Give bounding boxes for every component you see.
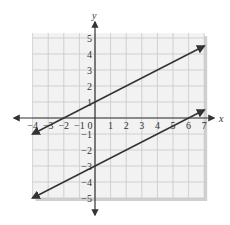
y-tick-label: −5 <box>81 193 92 204</box>
y-tick-label: 3 <box>87 65 92 76</box>
y-axis-label: y <box>91 10 97 21</box>
x-tick-label: 2 <box>124 120 129 131</box>
x-tick-label: 1 <box>108 120 113 131</box>
y-tick-label: 2 <box>87 81 92 92</box>
x-tick-label: −4 <box>27 120 38 131</box>
x-axis-label: x <box>218 113 224 124</box>
x-tick-label: 4 <box>155 120 160 131</box>
x-tick-label: 3 <box>139 120 144 131</box>
y-tick-label: −1 <box>81 129 92 140</box>
y-tick-label: 5 <box>87 33 92 44</box>
x-tick-label: −2 <box>58 120 69 131</box>
y-tick-label: −4 <box>81 177 92 188</box>
coordinate-plane: −4−3−2−10123456754321−1−2−3−4−5 x y <box>0 0 230 225</box>
y-tick-label: 4 <box>87 49 92 60</box>
grid-area <box>33 33 205 198</box>
y-tick-label: −2 <box>81 145 92 156</box>
x-tick-label: 7 <box>202 120 207 131</box>
x-tick-label: 6 <box>186 120 191 131</box>
